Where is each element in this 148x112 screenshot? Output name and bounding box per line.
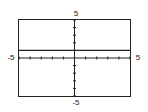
graph: 5 -5 -5 5 — [0, 0, 148, 112]
y-max-label: 5 — [74, 9, 79, 18]
x-max-label: 5 — [136, 53, 141, 62]
y-min-label: -5 — [72, 98, 80, 107]
x-min-label: -5 — [7, 53, 15, 62]
